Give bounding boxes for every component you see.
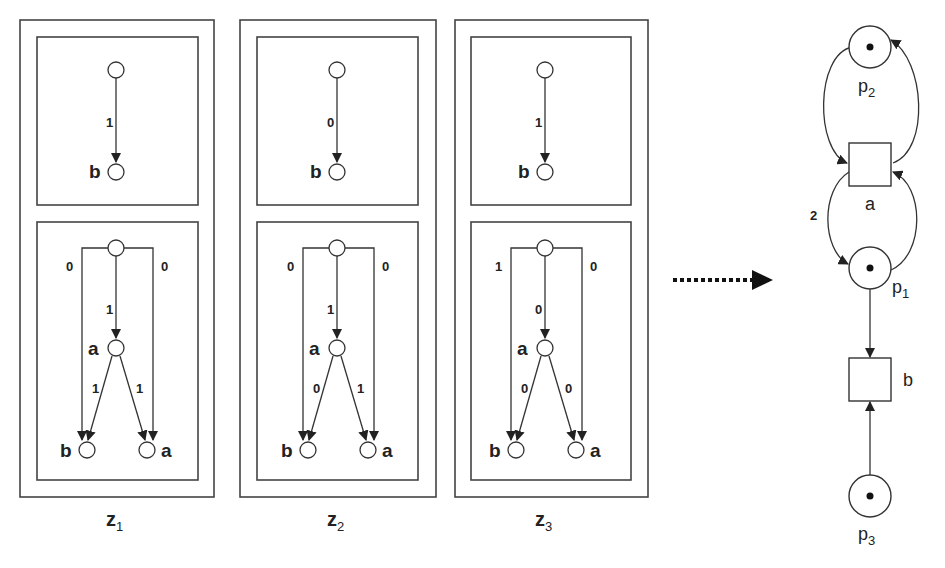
zone-outer-box xyxy=(240,20,436,497)
top-tree-root-node xyxy=(537,62,553,78)
top-tree-leaf-node xyxy=(537,164,553,180)
top-tree-root-node xyxy=(329,62,345,78)
place-p1: p1 xyxy=(849,247,909,301)
mid-left-weight: 0 xyxy=(313,381,320,396)
leaf-left-label: b xyxy=(281,440,293,461)
bottom-tree-mid-node xyxy=(108,340,124,356)
transition-b: b xyxy=(849,358,913,401)
arrow-head-icon xyxy=(752,270,773,290)
place-p3: p3 xyxy=(849,475,891,548)
token-icon xyxy=(867,265,874,272)
mid-left-edge xyxy=(517,356,541,440)
right-branch-edge xyxy=(553,248,582,440)
place-p1-label: p1 xyxy=(892,277,909,301)
top-tree-leaf-label: b xyxy=(518,161,530,182)
bottom-tree-mid-node xyxy=(537,340,553,356)
mid-right-edge xyxy=(341,356,366,440)
top-tree-leaf-label: b xyxy=(310,161,322,182)
petri-net: 2 p2 p1 p3 a b xyxy=(810,26,919,548)
transition-a-label: a xyxy=(865,194,876,214)
top-tree-root-node xyxy=(108,62,124,78)
token-icon xyxy=(867,493,874,500)
zone-label: z2 xyxy=(327,508,344,534)
transition-b-label: b xyxy=(903,370,913,390)
mid-right-edge xyxy=(120,356,145,440)
arc-p2-to-a xyxy=(824,47,852,163)
bottom-tree-leaf-right-node xyxy=(568,442,584,458)
top-tree-edge-weight: 0 xyxy=(327,115,334,130)
mid-left-weight: 1 xyxy=(92,381,99,396)
transformation-arrow xyxy=(673,270,773,290)
center-edge-weight: 1 xyxy=(327,302,334,317)
zone-outer-box xyxy=(455,20,648,497)
right-branch-weight: 0 xyxy=(161,259,168,274)
bottom-tree-leaf-left-node xyxy=(79,442,95,458)
leaf-left-label: b xyxy=(60,440,72,461)
bottom-tree-leaf-right-node xyxy=(139,442,155,458)
zone-label: z1 xyxy=(106,508,123,534)
center-edge-weight: 0 xyxy=(535,302,542,317)
mid-left-weight: 0 xyxy=(521,381,528,396)
arc-p1-to-a xyxy=(891,172,917,270)
bottom-tree-root-node xyxy=(329,240,345,256)
mid-left-edge xyxy=(309,356,333,440)
arc-a-to-p2 xyxy=(891,40,919,163)
top-tree-leaf-node xyxy=(329,164,345,180)
top-tree-leaf-node xyxy=(108,164,124,180)
top-tree-edge-weight: 1 xyxy=(106,115,113,130)
token-icon xyxy=(867,44,874,51)
right-branch-edge xyxy=(345,248,374,440)
place-p2: p2 xyxy=(849,26,891,100)
bottom-tree-leaf-left-node xyxy=(508,442,524,458)
right-branch-weight: 0 xyxy=(590,259,597,274)
top-tree-leaf-label: b xyxy=(89,161,101,182)
mid-node-label: a xyxy=(88,338,99,359)
mid-right-edge xyxy=(549,356,574,440)
mid-node-label: a xyxy=(517,338,528,359)
place-p2-label: p2 xyxy=(858,76,875,100)
arc-a-to-p1 xyxy=(828,172,849,264)
zone-z3: 1b100a00baz3 xyxy=(455,20,648,534)
right-branch-edge xyxy=(124,248,153,440)
left-branch-weight: 0 xyxy=(66,259,73,274)
zone-label: z3 xyxy=(535,508,552,534)
transition-a: a xyxy=(849,143,891,214)
mid-left-edge xyxy=(88,356,112,440)
bottom-tree-root-node xyxy=(537,240,553,256)
mid-right-weight: 1 xyxy=(357,381,364,396)
bottom-tree-root-node xyxy=(108,240,124,256)
left-branch-weight: 1 xyxy=(495,259,502,274)
bottom-tree-leaf-right-node xyxy=(360,442,376,458)
leaf-right-label: a xyxy=(161,440,172,461)
bottom-tree-mid-node xyxy=(329,340,345,356)
arc-weight-a-p1: 2 xyxy=(810,208,817,223)
zone-z2: 0b001a01baz2 xyxy=(240,20,436,534)
center-edge-weight: 1 xyxy=(106,302,113,317)
place-p3-label: p3 xyxy=(858,524,875,548)
diagram-canvas: 1b001a11baz10b001a01baz21b100a00baz3 2 p… xyxy=(0,0,945,568)
bottom-tree-leaf-left-node xyxy=(300,442,316,458)
zone-outer-box xyxy=(20,20,214,497)
top-tree-edge-weight: 1 xyxy=(535,115,542,130)
top-tree-box xyxy=(471,37,631,205)
mid-node-label: a xyxy=(309,338,320,359)
mid-right-weight: 0 xyxy=(565,381,572,396)
leaf-right-label: a xyxy=(590,440,601,461)
right-branch-weight: 0 xyxy=(382,259,389,274)
zones-group: 1b001a11baz10b001a01baz21b100a00baz3 xyxy=(20,20,648,534)
leaf-left-label: b xyxy=(489,440,501,461)
zone-z1: 1b001a11baz1 xyxy=(20,20,214,534)
mid-right-weight: 1 xyxy=(136,381,143,396)
left-branch-weight: 0 xyxy=(287,259,294,274)
leaf-right-label: a xyxy=(382,440,393,461)
